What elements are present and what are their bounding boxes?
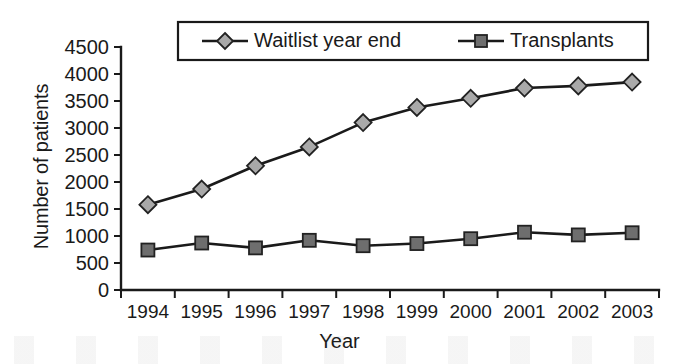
x-tick-label: 1998 [342, 301, 384, 322]
chart-legend: Waitlist year endTransplants [178, 22, 648, 60]
data-point-marker [249, 241, 262, 254]
y-tick-label: 4500 [65, 36, 110, 58]
x-tick-label: 1999 [396, 301, 438, 322]
y-tick-label: 1500 [65, 198, 110, 220]
x-tick-label: 2003 [611, 301, 653, 322]
data-point-marker [464, 232, 477, 245]
data-point-marker [624, 74, 641, 91]
line-chart-plot: 050010001500200025003000350040004500 199… [0, 0, 679, 364]
x-tick-label: 2002 [557, 301, 599, 322]
series-2 [141, 226, 638, 257]
x-tick-label: 1996 [234, 301, 276, 322]
data-point-marker [572, 228, 585, 241]
data-point-marker [303, 234, 316, 247]
data-point-marker [357, 239, 370, 252]
data-point-marker [410, 237, 423, 250]
data-point-marker [301, 138, 318, 155]
legend-label: Waitlist year end [254, 29, 401, 51]
series-line [148, 232, 632, 250]
data-point-marker [139, 196, 156, 213]
series-1 [139, 74, 640, 214]
data-point-marker [626, 226, 639, 239]
y-tick-label: 3000 [65, 117, 110, 139]
data-point-marker [247, 157, 264, 174]
data-point-marker [355, 114, 372, 131]
y-tick-label: 3500 [65, 90, 110, 112]
y-tick-label: 0 [98, 279, 109, 301]
y-tick-label: 500 [76, 252, 109, 274]
y-axis-ticks: 050010001500200025003000350040004500 [65, 36, 122, 301]
data-point-marker [570, 77, 587, 94]
data-point-marker [408, 99, 425, 116]
y-tick-label: 2500 [65, 144, 110, 166]
data-series [139, 74, 640, 257]
y-tick-label: 1000 [65, 225, 110, 247]
x-tick-label: 1997 [288, 301, 330, 322]
legend-label: Transplants [510, 29, 614, 51]
data-point-marker [193, 181, 210, 198]
chart-container: Number of patients Year 0500100015002000… [0, 0, 679, 364]
series-line [148, 82, 632, 205]
data-point-marker [195, 237, 208, 250]
data-point-marker [141, 244, 154, 257]
x-axis-ticks: 1994199519961997199819992000200120022003 [121, 290, 659, 322]
x-tick-label: 2001 [503, 301, 545, 322]
x-tick-label: 1995 [181, 301, 223, 322]
legend-marker-square [475, 35, 487, 47]
data-point-marker [462, 90, 479, 107]
y-tick-label: 4000 [65, 63, 110, 85]
x-tick-label: 1994 [127, 301, 170, 322]
data-point-marker [516, 80, 533, 97]
data-point-marker [518, 226, 531, 239]
y-tick-label: 2000 [65, 171, 110, 193]
x-tick-label: 2000 [450, 301, 492, 322]
